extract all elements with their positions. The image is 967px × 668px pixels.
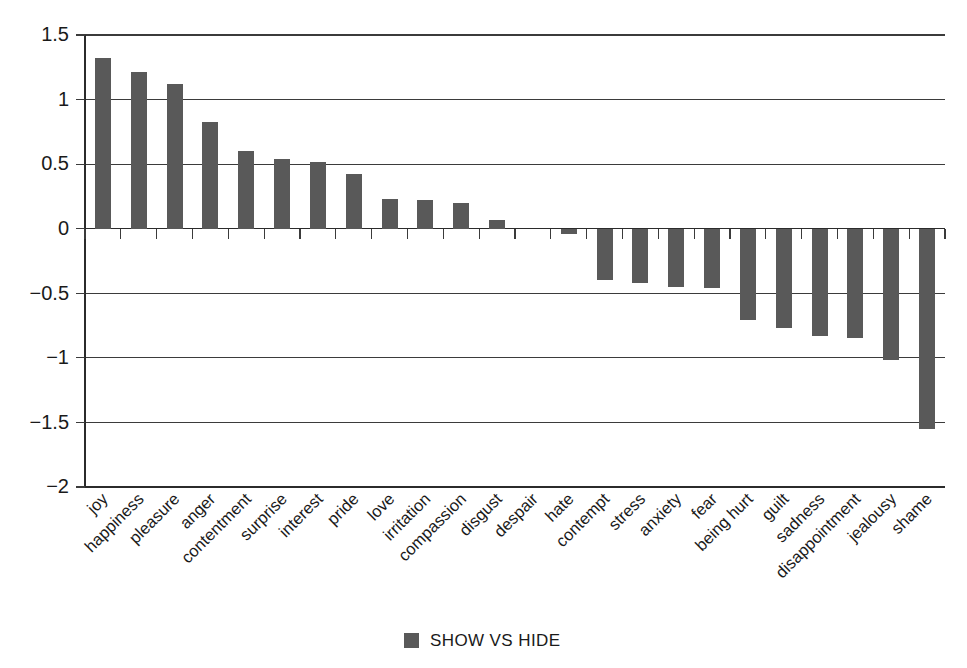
bar-pleasure xyxy=(167,84,183,229)
bar-anxiety xyxy=(668,229,684,287)
legend-swatch-show-vs-hide xyxy=(404,633,419,648)
y-axis-tick-label: 1.5 xyxy=(41,23,69,45)
bar-jealousy xyxy=(883,229,899,361)
chart-canvas: 1.510.50−0.5−1−1.5−2 joyhappinesspleasur… xyxy=(0,0,967,668)
bar-guilt xyxy=(776,229,792,328)
y-axis-tick-label: 0 xyxy=(58,217,69,239)
bar-series-show-vs-hide xyxy=(95,58,935,429)
x-axis-category-labels: joyhappinesspleasureangercontentmentsurp… xyxy=(81,489,935,581)
chart-legend: SHOW VS HIDE xyxy=(404,631,560,650)
x-axis-label-shame: shame xyxy=(887,489,935,537)
bar-disappointment xyxy=(847,229,863,339)
bar-compassion xyxy=(453,203,469,229)
bar-chart-figure: 1.510.50−0.5−1−1.5−2 joyhappinesspleasur… xyxy=(0,0,967,668)
bar-anger xyxy=(202,122,218,229)
bar-love xyxy=(382,199,398,229)
bar-disgust xyxy=(489,220,505,229)
bar-surprise xyxy=(274,159,290,229)
bar-irritation xyxy=(417,200,433,228)
bar-stress xyxy=(632,229,648,283)
y-axis-tick-label: −0.5 xyxy=(30,282,69,304)
bar-happiness xyxy=(131,72,147,228)
bar-sadness xyxy=(812,229,828,336)
y-axis-tick-label: −2 xyxy=(46,475,69,497)
x-axis-label-pride: pride xyxy=(323,489,362,528)
bar-pride xyxy=(346,174,362,228)
y-axis-tick-label: 0.5 xyxy=(41,152,69,174)
bar-contempt xyxy=(597,229,613,281)
bar-joy xyxy=(95,58,111,228)
bar-shame xyxy=(919,229,935,429)
legend-label-show-vs-hide: SHOW VS HIDE xyxy=(430,631,560,650)
bar-fear xyxy=(704,229,720,288)
bar-hate xyxy=(561,229,577,234)
y-axis-tick-label: 1 xyxy=(58,88,69,110)
y-axis-tick-label: −1 xyxy=(46,346,69,368)
bar-being-hurt xyxy=(740,229,756,321)
bar-contentment xyxy=(238,151,254,228)
x-axis-label-joy: joy xyxy=(83,489,112,518)
bar-interest xyxy=(310,162,326,229)
y-axis xyxy=(76,35,85,487)
y-axis-tick-labels: 1.510.50−0.5−1−1.5−2 xyxy=(30,23,69,497)
y-axis-tick-label: −1.5 xyxy=(30,411,69,433)
